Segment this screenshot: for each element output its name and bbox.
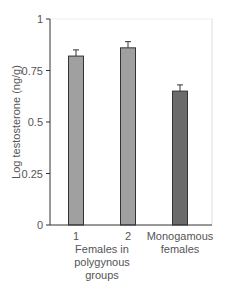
group-label-line1: Females in bbox=[75, 243, 129, 255]
y-tick-label: 0 bbox=[37, 219, 43, 231]
bar-2 bbox=[121, 48, 136, 225]
y-tick-label: 0.5 bbox=[28, 116, 43, 128]
y-axis-title: Log testosterone (ng/g) bbox=[10, 65, 22, 179]
category-label-monogamous-line2: females bbox=[161, 243, 200, 255]
category-label-1: 1 bbox=[73, 230, 79, 242]
y-tick-label: 0.25 bbox=[22, 168, 43, 180]
bar-chart: 00.250.50.751 Log testosterone (ng/g) 1 … bbox=[0, 0, 225, 285]
category-label-2: 2 bbox=[125, 230, 131, 242]
group-label-line2: polygynous bbox=[74, 256, 130, 268]
bars bbox=[69, 42, 188, 225]
group-label-line3: groups bbox=[85, 269, 119, 281]
y-ticks: 00.250.50.751 bbox=[22, 13, 50, 231]
category-label-monogamous-line1: Monogamous bbox=[147, 230, 214, 242]
bar-3 bbox=[173, 91, 188, 225]
y-tick-label: 0.75 bbox=[22, 65, 43, 77]
y-tick-label: 1 bbox=[37, 13, 43, 25]
bar-1 bbox=[69, 56, 84, 225]
